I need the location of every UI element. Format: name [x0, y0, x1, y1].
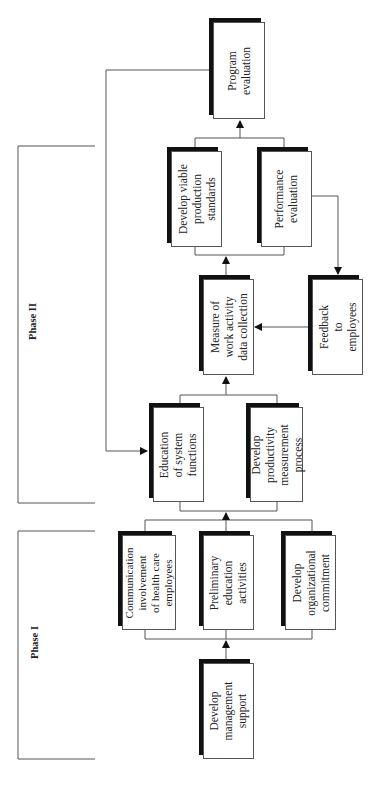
connector-program-loop-to-education — [106, 70, 209, 451]
node-label: Develop organizational commitment — [290, 550, 332, 616]
bracket-standards-bottom — [195, 247, 284, 255]
node-label: Develop management support — [208, 682, 250, 741]
node-label: Develop viable production standards — [176, 164, 218, 234]
node-label: Measure of work activity data collection — [208, 293, 250, 360]
node-label: Feedback to employees — [317, 302, 359, 351]
connector-performance-to-feedback — [312, 196, 338, 274]
bracket-edu-bottom — [180, 502, 277, 511]
node-label: Preliminary education activities — [208, 555, 250, 609]
connector-layer — [0, 0, 377, 790]
phase-1-label: Phase I — [29, 626, 40, 659]
node-label: Education of system functions — [158, 431, 200, 478]
node-label: Develop productivity measurement process — [249, 424, 305, 485]
bracket-standards-top — [195, 138, 284, 147]
bracket-phase1-bottom — [145, 630, 312, 639]
bracket-phase1-top — [145, 520, 312, 531]
node-label: Communication involvement of health care… — [123, 547, 175, 618]
node-label: Program evaluation — [225, 47, 253, 95]
node-label: Performance evaluation — [273, 170, 301, 229]
bracket-edu-top — [180, 395, 277, 403]
phase-2-label: Phase II — [27, 303, 38, 340]
